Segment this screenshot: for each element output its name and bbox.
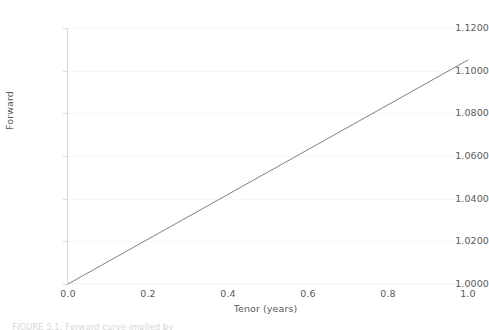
y-tick-label-1.1200: 1.1200: [427, 23, 489, 33]
y-tick-mark: [63, 113, 67, 114]
y-axis-spine: [67, 28, 68, 285]
y-tick-label-1.0800: 1.0800: [427, 108, 489, 118]
plot-area: [68, 28, 468, 284]
x-tick-label-0.2: 0.2: [128, 289, 168, 299]
x-tick-label-0.0: 0.0: [48, 289, 88, 299]
y-tick-mark: [63, 71, 67, 72]
y-tick-label-1.0400: 1.0400: [427, 194, 489, 204]
x-axis-title-text: Tenor (years): [234, 303, 298, 314]
y-tick-label-1.0200: 1.0200: [427, 236, 489, 246]
x-axis-title: Tenor (years): [0, 303, 489, 314]
y-tick-mark: [63, 156, 67, 157]
y-tick-mark: [63, 241, 67, 242]
y-tick-label-1.0000: 1.0000: [427, 279, 489, 289]
y-tick-mark: [63, 28, 67, 29]
y-tick-mark: [63, 199, 67, 200]
gridline-y-1.0600: [68, 156, 468, 157]
y-tick-label-1.1000: 1.1000: [427, 66, 489, 76]
gridline-y-1.0800: [68, 113, 468, 114]
x-tick-label-0.6: 0.6: [288, 289, 328, 299]
gridline-y-1.0400: [68, 199, 468, 200]
figure-caption: FIGURE 5.1: Forward curve implied by: [12, 322, 173, 330]
y-axis-title: Forward: [4, 91, 15, 130]
gridline-y-1.0200: [68, 241, 468, 242]
y-tick-label-1.0600: 1.0600: [427, 151, 489, 161]
chart-figure: 1.1200 1.1000 1.0800 1.0600 1.0400 1.020…: [0, 0, 489, 330]
gridline-y-1.1000: [68, 71, 468, 72]
x-tick-label-1.0: 1.0: [448, 289, 488, 299]
x-axis-spine: [68, 284, 468, 285]
gridline-y-1.1200: [68, 28, 468, 29]
y-tick-mark: [63, 284, 67, 285]
x-tick-label-0.4: 0.4: [208, 289, 248, 299]
x-tick-label-0.8: 0.8: [368, 289, 408, 299]
